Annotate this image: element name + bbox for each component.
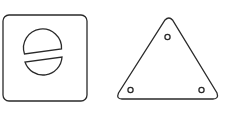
slotted-screw-icon: [24, 29, 62, 75]
hole-icon-top: [165, 34, 170, 39]
diagram-canvas: [0, 0, 241, 119]
triangle-outline: [118, 18, 218, 99]
diagram-figure: [0, 0, 241, 119]
square-plate: [3, 15, 87, 101]
triangle-plate: [118, 18, 218, 99]
screw-upper-half: [24, 29, 62, 54]
screw-lower-half: [25, 57, 62, 75]
hole-icon-bottom-right: [199, 87, 204, 92]
hole-icon-bottom-left: [128, 87, 133, 92]
square-outline: [3, 15, 87, 101]
